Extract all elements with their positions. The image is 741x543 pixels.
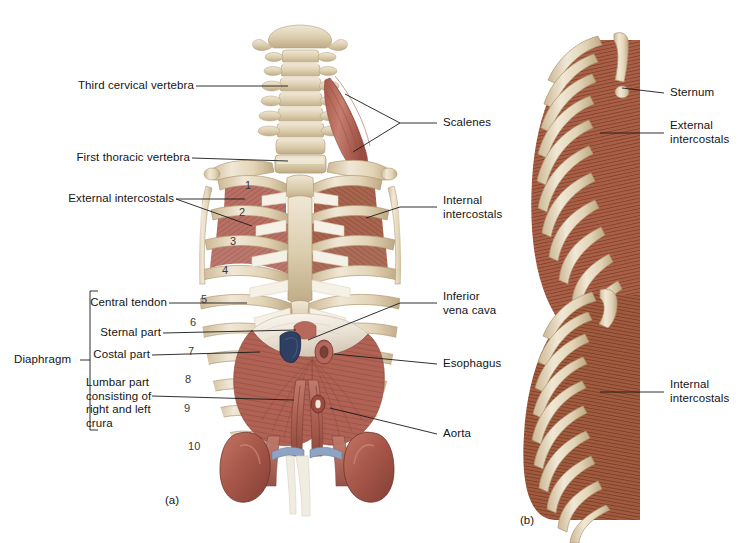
rib-number-4: 4 [222,264,228,278]
aortic-opening [311,395,325,413]
panel-b-bottom-illustration [515,289,645,543]
label-sternum: Sternum [670,86,714,100]
rib-number-10: 10 [188,440,200,454]
label-central-tendon: Central tendon [4,296,167,310]
label-internal-intercostals: Internal intercostals [443,194,502,221]
label-scalenes: Scalenes [443,116,491,130]
first-thoracic-vertebra-shape [275,155,326,173]
label-diaphragm: Diaphragm [14,353,71,367]
rib-number-5: 5 [201,293,207,307]
label-external-intercostals: External intercostals [4,192,174,206]
label-sternal-part: Sternal part [4,326,161,340]
scalenes-muscle [324,76,370,172]
anatomical-figure: Third cervical vertebra First thoracic v… [0,0,741,543]
sternum-and-cartilage [250,175,350,334]
caption-panel-a: (a) [165,494,179,506]
label-external-intercostals-b: External intercostals [670,119,729,146]
rib-number-8: 8 [185,373,191,387]
rib-number-1: 1 [245,179,251,193]
rib-number-3: 3 [230,235,236,249]
esophageal-opening [315,340,333,364]
renal-vessels [272,447,342,516]
rib-number-9: 9 [184,402,190,416]
caval-opening [280,332,301,363]
label-esophagus: Esophagus [443,357,501,371]
label-aorta: Aorta [443,427,471,441]
label-third-cervical-vertebra: Third cervical vertebra [4,79,194,93]
label-inferior-vena-cava: Inferior vena cava [443,290,496,317]
panel-b-top-illustration [520,30,650,340]
rib-number-7: 7 [188,345,194,359]
label-first-thoracic-vertebra: First thoracic vertebra [4,151,190,165]
label-lumbar-part: Lumbar part consisting of right and left… [86,376,166,430]
label-internal-intercostals-b: Internal intercostals [670,378,729,405]
rib-number-6: 6 [190,316,196,330]
rib-number-2: 2 [239,206,245,220]
caption-panel-b: (b) [520,514,534,526]
